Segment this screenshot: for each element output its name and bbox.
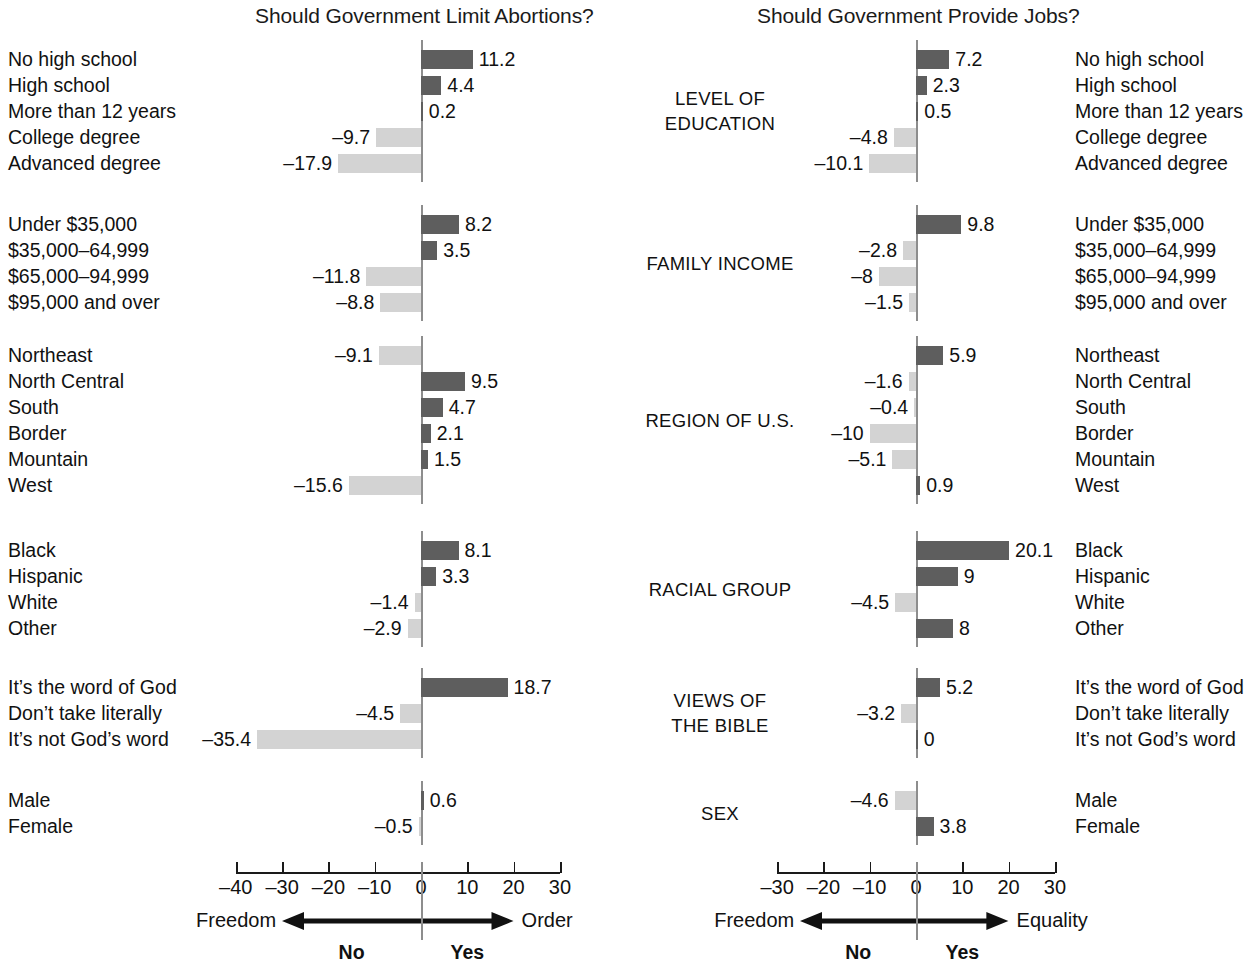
- bar: [379, 346, 421, 365]
- bar: [421, 424, 431, 443]
- axis-tick: [1055, 862, 1057, 873]
- bar-value-label: –9.1: [335, 342, 373, 368]
- bar: [895, 593, 916, 612]
- bar-value-label: –3.2: [857, 700, 895, 726]
- bar-value-label: 4.7: [449, 394, 476, 420]
- bar: [869, 154, 916, 173]
- bar-value-label: 9.8: [967, 211, 994, 237]
- bar: [916, 215, 961, 234]
- double-arrow-icon-right: [800, 908, 1008, 934]
- legend-positive-answer-right: Yes: [945, 940, 979, 964]
- category-label: It’s the word of God: [1075, 674, 1244, 700]
- category-label: Male: [1075, 787, 1117, 813]
- bar: [421, 372, 465, 391]
- bar-value-label: 1.5: [434, 446, 461, 472]
- bar-value-label: 0.5: [924, 98, 951, 124]
- bar: [415, 593, 421, 612]
- bar: [916, 476, 920, 495]
- bar: [421, 102, 423, 121]
- category-label: South: [8, 394, 59, 420]
- bar: [421, 241, 437, 260]
- axis-tick-label: 10: [951, 875, 973, 899]
- bar-value-label: 20.1: [1015, 537, 1053, 563]
- bar-value-label: 8.2: [465, 211, 492, 237]
- bar: [870, 424, 916, 443]
- bar-value-label: 2.3: [933, 72, 960, 98]
- bar-value-label: –1.4: [371, 589, 409, 615]
- bar-value-label: 9.5: [471, 368, 498, 394]
- bar-value-label: –0.5: [375, 813, 413, 839]
- bar: [879, 267, 916, 286]
- bar: [421, 76, 441, 95]
- bar-value-label: 3.8: [940, 813, 967, 839]
- bar: [349, 476, 421, 495]
- category-label: Black: [8, 537, 56, 563]
- bar: [380, 293, 421, 312]
- bar-value-label: –9.7: [332, 124, 370, 150]
- category-label: Advanced degree: [1075, 150, 1228, 176]
- axis-tick-label: –30: [760, 875, 793, 899]
- bar-value-label: 3.3: [442, 563, 469, 589]
- category-label: More than 12 years: [8, 98, 176, 124]
- bar-value-label: –2.8: [859, 237, 897, 263]
- category-label: Border: [8, 420, 67, 446]
- bar-value-label: –4.5: [851, 589, 889, 615]
- bar: [894, 128, 916, 147]
- category-label: $35,000–64,999: [1075, 237, 1216, 263]
- legend-negative-answer-right: No: [845, 940, 871, 964]
- category-label: Border: [1075, 420, 1134, 446]
- category-label: Other: [8, 615, 57, 641]
- category-label: White: [8, 589, 58, 615]
- bar-value-label: 2.1: [437, 420, 464, 446]
- bar-value-label: –10: [831, 420, 864, 446]
- bar: [421, 541, 459, 560]
- bar: [400, 704, 421, 723]
- bar: [916, 567, 958, 586]
- bar-value-label: 7.2: [955, 46, 982, 72]
- category-label: Black: [1075, 537, 1123, 563]
- bar-value-label: 4.4: [447, 72, 474, 98]
- category-label: Mountain: [8, 446, 88, 472]
- category-label: No high school: [8, 46, 137, 72]
- category-label: It’s not God’s word: [8, 726, 169, 752]
- bar: [257, 730, 421, 749]
- bar: [421, 791, 424, 810]
- bar: [909, 372, 916, 391]
- category-label: Under $35,000: [8, 211, 137, 237]
- bar-value-label: –8: [851, 263, 873, 289]
- bar: [421, 450, 428, 469]
- category-label: Male: [8, 787, 50, 813]
- bar: [892, 450, 916, 469]
- axis-tick-label: 20: [997, 875, 1019, 899]
- bar-value-label: –15.6: [294, 472, 343, 498]
- bar-value-label: –4.8: [850, 124, 888, 150]
- direction-legend-right: FreedomEqualityNoYes: [0, 908, 1258, 968]
- group-heading: VIEWS OF THE BIBLE: [600, 688, 840, 738]
- bar: [421, 398, 443, 417]
- bar-value-label: 5.2: [946, 674, 973, 700]
- bar: [909, 293, 916, 312]
- bar-value-label: 8.1: [465, 537, 492, 563]
- zero-rule-legend-right: [916, 862, 918, 940]
- category-label: $95,000 and over: [1075, 289, 1227, 315]
- bar: [895, 791, 916, 810]
- bar-value-label: 18.7: [514, 674, 552, 700]
- bar-value-label: –2.9: [364, 615, 402, 641]
- bar: [421, 567, 436, 586]
- bar: [421, 678, 508, 697]
- category-label: It’s not God’s word: [1075, 726, 1236, 752]
- category-label: Hispanic: [8, 563, 83, 589]
- category-label: $65,000–94,999: [1075, 263, 1216, 289]
- axis-tick: [1009, 862, 1011, 873]
- axis-tick-label: –10: [853, 875, 886, 899]
- category-label: White: [1075, 589, 1125, 615]
- category-label: Advanced degree: [8, 150, 161, 176]
- bar-value-label: –5.1: [848, 446, 886, 472]
- category-label: West: [8, 472, 52, 498]
- bar-value-label: –35.4: [202, 726, 251, 752]
- bar-value-label: –11.8: [313, 263, 360, 289]
- category-label: Northeast: [1075, 342, 1160, 368]
- bar: [419, 817, 421, 836]
- bar: [338, 154, 421, 173]
- bar-value-label: –4.6: [851, 787, 889, 813]
